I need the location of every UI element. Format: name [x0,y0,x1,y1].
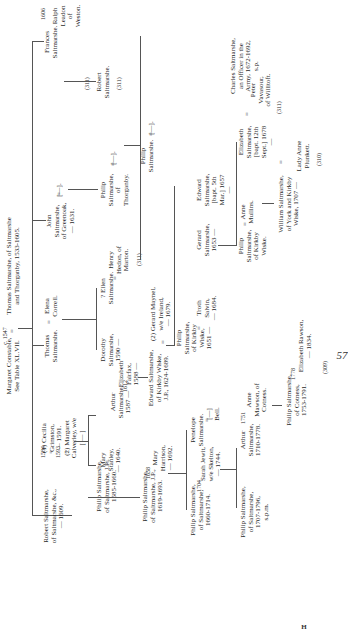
cross-reference: (310) [316,153,322,166]
spouse-philip-gen3: [—]. [148,121,156,134]
marriage-sign: = [196,326,203,330]
person-philip-thorganby: Philip Saltmarshe, of Thorganby. [100,174,130,207]
person-philip-kirkby-wiske: Philip Saltmarshe, of Kirkby Wiske. [238,230,268,263]
sibling-bar-gen1 [32,41,33,516]
person-arthur-1710: Arthur Saltmarshe, 1710-1778. [240,424,263,457]
spouse-troth-salvin: Troth Salvin, — 1684. [196,296,219,321]
descent-line [64,81,96,82]
spouse-lady-anne-plunkett: Lady Anne Plunkett. [296,141,311,172]
descent-line [18,328,32,329]
descent-line [272,405,282,406]
person-edward-1657: Edward Saltmarshe, [bapt. 5th Mar.] 1657… [196,174,234,207]
person-philip-cotness: Philip Saltmarshe, of Cotness, 1753-1791… [286,374,309,425]
spouse-mary-harrison: Mary Harrison, — 1692. [152,445,175,471]
sibling-bar-gen4b [236,142,237,246]
person-elizabeth-1678: Elizabeth Saltmarshe, [bapt. 12th Sept.]… [238,126,276,159]
cross-reference: (309) [322,361,328,374]
descent-line [168,473,186,474]
descent-line [124,145,140,146]
person-philip-gen3: Philip Saltmarshe. [140,140,155,173]
spouse-elena-correll: Elena Correll. [44,295,59,317]
cross-reference: (311) [276,101,282,114]
descent-line [262,203,274,204]
spouse-anne-mullins: Anne Mullins. [240,200,255,224]
spouse-gerard-maynel: (2) Gerard Maynel, w/e Ireland, — 1679. [150,287,173,341]
spouse-bell: [—] Bell. [206,407,221,420]
frances-marriage-year: 1606 [40,8,48,20]
drop-line [88,415,96,416]
cross-reference: (311) [116,77,122,90]
person-gerard-1653: Gerard Saltmarshe, 1653 — [196,224,219,257]
person-robert-saltmarshe: Robert Saltmarshe, of Saltmarshe, &c., —… [43,489,66,543]
person-philip-1660: Philip Saltmarshe, of Saltmarshe, 1660-1… [190,484,213,535]
philip-1660-marriage-year: 1704 [196,480,204,492]
root-wife: Margaret Constable, See Table XL.VII. [6,337,21,394]
cross-reference: (311) [136,253,142,266]
spouse-henry-hedon: Henry Hedon, of Marton. [108,246,131,274]
marriage-sign: = [9,329,16,333]
person-john-saltmarshe: John Saltmarshe, of Greenoak, — 1631. [46,203,76,240]
spouse-mary-stanley: Mary Stanley, — 1640. [100,448,123,473]
spouses-cecilia-margaret: (1) Cecilia Grimston, — 1591. (2) Margar… [41,418,86,458]
person-thomas-saltmarshe: Thomas Saltmarshe. [44,330,59,363]
signature-mark: H [301,623,306,631]
pedigree-page: Margaret Constable, See Table XL.VII. c.… [0,0,348,636]
person-philip-1707: Philip Saltmarshe, of Saltmarshe, 1707-1… [240,486,270,537]
drop-line [88,497,140,498]
descent-line [62,319,96,320]
person-william-york: William Saltmarshe, of York and Kirkby W… [278,175,301,232]
spouse-sarah-jewit: Sarah Jewit, w/e Skelton, — 1744. [200,447,223,482]
sibling-bar-gen3b [174,186,175,346]
sibling-bar-gen2b [96,288,97,350]
descent-line [166,345,174,346]
person-dorothy: Dorothy Saltmarshe, 1590 — [100,334,123,367]
sibling-bar-gen5 [236,448,237,508]
descent-line [74,441,88,442]
spouse-elizabeth-rawson: Elizabeth Rawson, — 1834. [298,320,313,373]
root-husband: Thomas Saltmarshe, of Saltmarshe and Tho… [6,217,21,315]
sibling-bar-gen2a [88,416,89,466]
cross-reference: (311) [84,77,90,90]
spouse-peter-vavasour: Peter Vavasour, of Willitoft. [250,73,273,106]
drop-line [32,220,46,221]
person-edward-kirkby-wiske: Edward Saltmarshe, of Kirkby Wiske, J.P.… [148,350,171,406]
marriage-sign: = [244,112,251,116]
spouse-john: [—]. [56,183,64,196]
marriage-sign: = [112,276,119,280]
page-number: 57 [337,349,348,361]
marriage-sign: = [46,320,53,324]
person-robert-311: Robert Saltmarshe. [96,66,111,99]
spouse-philip-thorganby: [—]. [110,151,118,164]
sibling-bar-gen4 [186,430,187,510]
person-frances-saltmarshe: Frances Saltmarshe. [44,26,59,59]
descent-line [218,245,236,246]
descent-line [68,189,98,190]
marriage-sign: = [278,160,285,164]
spouse-anne-mawson: Anne Mawson, of Cotness. [246,383,269,416]
descent-line [220,469,236,470]
spouse-ralph-leadon: Ralph Leadon of Weston. [52,5,82,28]
